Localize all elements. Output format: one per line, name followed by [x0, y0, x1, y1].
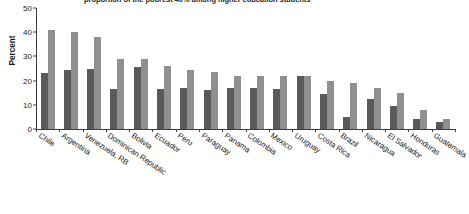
bar-light: [280, 76, 287, 129]
x-tick-mark: [152, 129, 153, 132]
y-tick-mark: [33, 8, 36, 9]
bar-light: [94, 37, 101, 129]
bar-dark: [227, 88, 234, 129]
x-tick-mark: [83, 129, 84, 132]
bar-group: [367, 88, 381, 129]
bar-light: [187, 70, 194, 129]
bar-dark: [367, 99, 374, 129]
y-tick-label: 50: [23, 4, 32, 13]
x-tick-mark: [199, 129, 200, 132]
bar-dark: [297, 76, 304, 129]
bar-group: [110, 59, 124, 129]
x-axis-labels: ChileArgentinaVenezuela, RBDominican Rep…: [0, 131, 459, 214]
bar-group: [273, 76, 287, 129]
bar-light: [257, 76, 264, 129]
bar-light: [350, 83, 357, 129]
y-tick-mark: [33, 104, 36, 105]
bar-group: [180, 70, 194, 129]
bar-light: [397, 93, 404, 129]
x-tick-mark: [292, 129, 293, 132]
bar-light: [420, 110, 427, 129]
bar-dark: [413, 119, 420, 129]
bar-group: [157, 66, 171, 129]
bar-group: [413, 110, 427, 129]
bar-light: [327, 81, 334, 129]
bar-light: [141, 59, 148, 129]
bar-dark: [320, 94, 327, 129]
bar-light: [374, 88, 381, 129]
x-tick-mark: [408, 129, 409, 132]
bar-dark: [134, 67, 141, 129]
x-tick-mark: [432, 129, 433, 132]
plot-area: 01020304050: [36, 8, 455, 129]
y-axis-label: Percent: [8, 21, 17, 81]
bar-dark: [41, 73, 48, 129]
y-tick-mark: [33, 80, 36, 81]
y-tick-label: 20: [23, 76, 32, 85]
bar-group: [64, 32, 78, 129]
bar-group: [320, 81, 334, 129]
bar-group: [134, 59, 148, 129]
y-tick-label: 10: [23, 100, 32, 109]
x-tick-mark: [269, 129, 270, 132]
y-tick-mark: [33, 32, 36, 33]
bar-dark: [64, 70, 71, 129]
x-tick-mark: [362, 129, 363, 132]
bar-group: [297, 76, 311, 129]
bar-dark: [180, 88, 187, 129]
bar-dark: [390, 106, 397, 129]
bar-group: [250, 76, 264, 129]
x-tick-mark: [455, 129, 456, 132]
x-tick-label: Chile: [37, 131, 57, 148]
bar-group: [436, 119, 450, 129]
y-tick-label: 40: [23, 28, 32, 37]
x-tick-mark: [339, 129, 340, 132]
bar-dark: [250, 88, 257, 129]
bar-group: [227, 76, 241, 129]
bar-group: [204, 72, 218, 129]
bar-group: [343, 83, 357, 129]
x-tick-mark: [315, 129, 316, 132]
bar-light: [164, 66, 171, 129]
bar-dark: [343, 117, 350, 129]
y-tick-label: 30: [23, 52, 32, 61]
bar-group: [390, 93, 404, 129]
x-tick-mark: [385, 129, 386, 132]
x-tick-mark: [222, 129, 223, 132]
bar-light: [71, 32, 78, 129]
bar-light: [117, 59, 124, 129]
x-tick-mark: [59, 129, 60, 132]
bar-dark: [204, 90, 211, 129]
bar-dark: [87, 69, 94, 130]
y-tick-mark: [33, 56, 36, 57]
x-tick-mark: [129, 129, 130, 132]
x-tick-mark: [246, 129, 247, 132]
bar-light: [234, 76, 241, 129]
bar-group: [41, 30, 55, 129]
x-tick-mark: [176, 129, 177, 132]
bar-light: [48, 30, 55, 129]
bar-light: [211, 72, 218, 129]
bar-dark: [157, 89, 164, 129]
x-tick-mark: [106, 129, 107, 132]
chart-title: proportion of the poorest 40% among high…: [84, 0, 454, 5]
bar-light: [304, 76, 311, 129]
bar-dark: [110, 89, 117, 129]
bar-dark: [273, 89, 280, 129]
bar-group: [87, 37, 101, 129]
bar-light: [443, 119, 450, 129]
bar-dark: [436, 122, 443, 129]
x-tick-mark: [36, 129, 37, 132]
